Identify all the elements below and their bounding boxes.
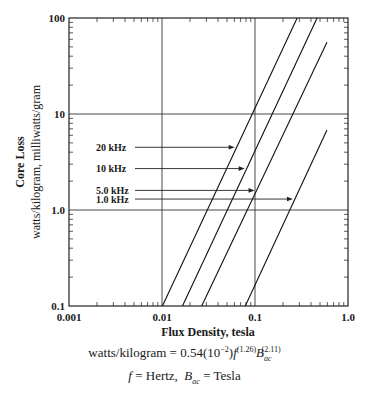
- x-tick-label: 0.1: [248, 311, 262, 323]
- series-line-5.0-khz: [202, 42, 327, 306]
- series-line-10-khz: [182, 18, 317, 306]
- y-tick-labels: 0.11.010100: [49, 12, 66, 312]
- x-tick-label: 0.001: [57, 311, 82, 323]
- arrowhead-icon: [287, 197, 293, 202]
- y-axis-title: Core Loss: [13, 136, 27, 188]
- y-tick-label: 1.0: [51, 204, 65, 216]
- x-tick-labels: 0.0010.010.11.0: [57, 311, 356, 323]
- core-loss-chart: 20 kHz10 kHz5.0 kHz1.0 kHz 0.0010.010.11…: [0, 0, 369, 400]
- series-label: 10 kHz: [96, 163, 127, 174]
- gridlines: [69, 18, 348, 306]
- arrowhead-icon: [239, 166, 245, 171]
- series-lines: [162, 18, 327, 306]
- plot-frame: [69, 18, 348, 306]
- arrowhead-icon: [249, 188, 255, 193]
- series-line-1.0-khz: [245, 130, 327, 306]
- series-arrows: 20 kHz10 kHz5.0 kHz1.0 kHz: [96, 142, 293, 205]
- formula-coef-exponent: −2: [220, 345, 229, 354]
- series-label: 20 kHz: [96, 142, 127, 153]
- loss-formula: watts/kilogram = 0.54(10−2)f(1.26)Bac(2.…: [0, 345, 369, 363]
- y-tick-label: 0.1: [51, 300, 65, 312]
- x-tick-label: 0.01: [152, 311, 171, 323]
- arrowhead-icon: [229, 145, 235, 150]
- formula-b-exponent: (2.11): [262, 345, 281, 354]
- y-tick-label: 10: [54, 108, 66, 120]
- formula-f-exponent: (1.26): [237, 345, 256, 354]
- formula-legend: f = Hertz, Bac = Tesla: [0, 368, 369, 386]
- y-axis-subtitle: watts/kilogram, milliwatts/gram: [29, 84, 43, 239]
- x-axis-title: Flux Density, tesla: [161, 325, 255, 339]
- series-label: 1.0 kHz: [96, 194, 129, 205]
- y-tick-label: 100: [49, 12, 66, 24]
- formula-lhs: watts/kilogram = 0.54: [88, 345, 203, 360]
- x-tick-label: 1.0: [341, 311, 355, 323]
- minor-ticks: [69, 18, 348, 306]
- series-line-20-khz: [162, 18, 297, 306]
